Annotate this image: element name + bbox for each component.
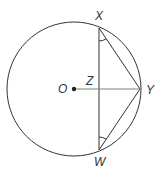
angle-mark-x bbox=[99, 39, 106, 41]
label-z: Z bbox=[85, 74, 94, 88]
label-w: W bbox=[94, 155, 107, 169]
label-x: X bbox=[94, 9, 104, 23]
circle-diagram: X O Z Y W bbox=[0, 0, 159, 171]
center-point-o bbox=[72, 87, 76, 91]
angle-mark-w bbox=[99, 137, 106, 139]
label-y: Y bbox=[146, 83, 155, 97]
label-o: O bbox=[58, 82, 67, 96]
